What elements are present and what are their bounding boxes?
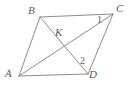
point-label-K: K — [55, 27, 62, 38]
angle-label-2: 2 — [80, 56, 85, 66]
angle-label-1: 1 — [97, 15, 102, 25]
segment-AB — [19, 17, 40, 76]
vertex-label-D: D — [89, 69, 97, 80]
vertex-label-C: C — [116, 3, 123, 14]
vertex-label-A: A — [5, 68, 12, 79]
geometry-figure: B C A D K 1 2 — [0, 0, 131, 89]
vertex-label-B: B — [28, 5, 35, 16]
segment-BC — [40, 14, 113, 17]
segment-AD — [19, 74, 88, 76]
diagram-canvas — [0, 0, 131, 89]
